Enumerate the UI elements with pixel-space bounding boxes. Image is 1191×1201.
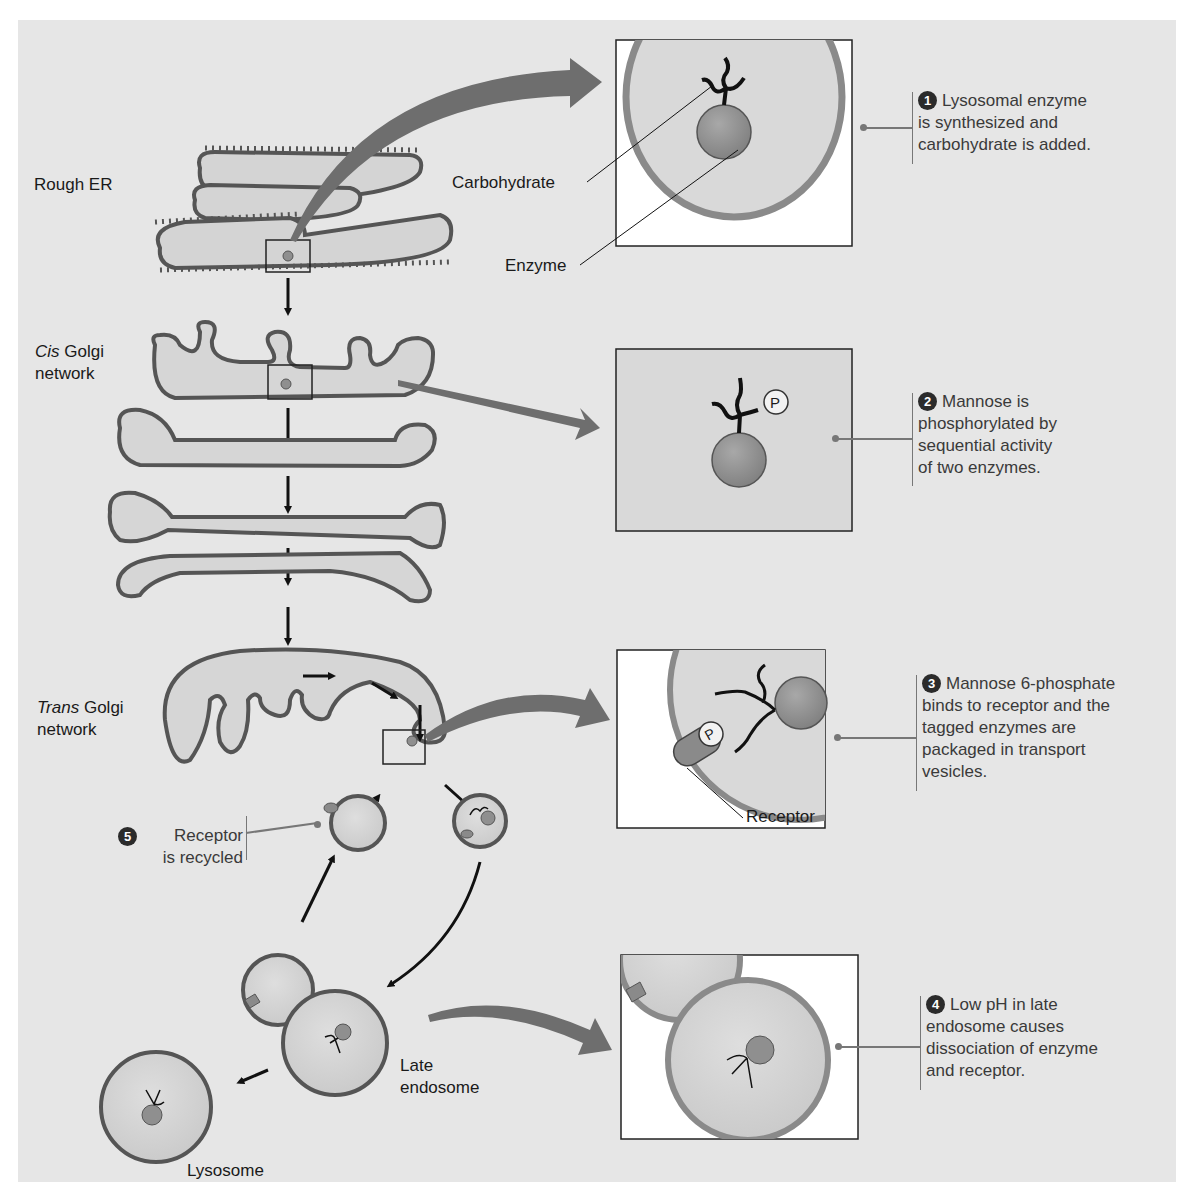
detail-panel-1: [580, 0, 852, 265]
lysosome: [101, 1052, 211, 1162]
label-phosphate-2: P: [770, 392, 780, 414]
label-cis-line2: network: [35, 364, 95, 383]
callout-dot-5: [314, 821, 321, 828]
zoom-arrow-4: [428, 1005, 612, 1055]
callout-bracket-4: [920, 996, 921, 1090]
step-4-text: 4Low pH in late endosome causes dissocia…: [926, 994, 1176, 1082]
step-1-line-1: Lysosomal enzyme: [942, 91, 1087, 110]
step-number-badge: 2: [918, 392, 937, 411]
late-endosome: [243, 955, 387, 1095]
callout-bracket-3: [916, 675, 917, 791]
callout-bracket-5: [246, 816, 247, 860]
callout-line-1: [864, 127, 912, 129]
label-rough-er: Rough ER: [34, 174, 112, 196]
callout-line-2: [836, 438, 912, 440]
step-2-line-3: sequential activity: [918, 436, 1052, 455]
step-2-line-4: of two enzymes.: [918, 458, 1041, 477]
label-trans-rest: Golgi: [79, 698, 123, 717]
step-number-badge: 4: [926, 995, 945, 1014]
step-5-text: 5Receptor is recycled: [118, 825, 243, 869]
label-cis-italic: Cis: [35, 342, 60, 361]
step-4-line-4: and receptor.: [926, 1061, 1025, 1080]
label-late-endosome-line2: endosome: [400, 1078, 479, 1097]
step-3-line-4: packaged in transport: [922, 740, 1086, 759]
step-2-line-1: Mannose is: [942, 392, 1029, 411]
label-lysosome: Lysosome: [187, 1160, 264, 1182]
golgi-cisternae: [110, 410, 444, 601]
arrow-to-endosome: [390, 862, 480, 985]
callout-bracket-1: [912, 92, 913, 164]
callout-line-3: [838, 737, 916, 739]
step-4-line-2: endosome causes: [926, 1017, 1064, 1036]
zoom-arrow-3: [425, 688, 610, 742]
detail-panel-3: [617, 560, 930, 828]
step-2-line-2: phosphorylated by: [918, 414, 1057, 433]
step-number-badge: 5: [118, 827, 137, 846]
step-3-line-5: vesicles.: [922, 762, 987, 781]
step-3-line-3: tagged enzymes are: [922, 718, 1076, 737]
step-5-line-1: Receptor: [174, 826, 243, 845]
recycled-vesicle: [324, 796, 385, 850]
label-receptor: Receptor: [746, 806, 815, 828]
label-late-endosome: Late endosome: [400, 1055, 479, 1099]
arrow-to-lysosome: [240, 1070, 268, 1082]
trans-golgi: [165, 649, 445, 761]
detail-panel-4: [620, 900, 858, 1140]
step-1-text: 1Lysosomal enzyme is synthesized and car…: [918, 90, 1168, 156]
step-4-line-1: Low pH in late: [950, 995, 1058, 1014]
label-cis-golgi: Cis Golgi network: [35, 341, 104, 385]
label-late-endosome-line1: Late: [400, 1056, 433, 1075]
callout-bracket-2: [912, 393, 913, 486]
label-trans-golgi: Trans Golgi network: [37, 697, 124, 741]
step-number-badge: 1: [918, 91, 937, 110]
step-4-line-3: dissociation of enzyme: [926, 1039, 1098, 1058]
label-trans-italic: Trans: [37, 698, 79, 717]
step-3-text: 3Mannose 6-phosphate binds to receptor a…: [922, 673, 1182, 783]
step-number-badge: 3: [922, 674, 941, 693]
step-1-line-2: is synthesized and: [918, 113, 1058, 132]
cis-golgi: [153, 322, 433, 398]
step-3-line-2: binds to receptor and the: [922, 696, 1110, 715]
label-enzyme: Enzyme: [505, 255, 566, 277]
step-3-line-1: Mannose 6-phosphate: [946, 674, 1115, 693]
label-trans-line2: network: [37, 720, 97, 739]
step-2-text: 2Mannose is phosphorylated by sequential…: [918, 391, 1168, 479]
rough-er: [158, 152, 451, 268]
label-carbohydrate: Carbohydrate: [452, 172, 555, 194]
transport-vesicle: [454, 795, 506, 847]
step-5-line-2: is recycled: [163, 848, 243, 867]
label-cis-rest: Golgi: [60, 342, 104, 361]
callout-line-4: [839, 1046, 920, 1048]
step-1-line-3: carbohydrate is added.: [918, 135, 1091, 154]
detail-panel-2: [616, 349, 852, 531]
